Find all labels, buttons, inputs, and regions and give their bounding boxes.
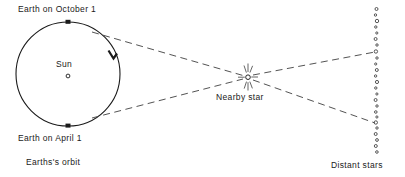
label-sun: Sun: [56, 60, 72, 69]
earth-april-marker: [66, 124, 71, 128]
label-distant-stars: Distant stars: [331, 161, 383, 170]
label-earth-october: Earth on October 1: [18, 5, 96, 14]
orbit-direction-tick-icon: [109, 51, 118, 59]
sun-marker: [66, 74, 70, 78]
sightline-star-to-upper-distant: [253, 52, 375, 75]
parallax-diagram: Earth on October 1 Sun Earth on April 1 …: [0, 0, 405, 177]
label-nearby-star: Nearby star: [216, 93, 264, 102]
label-earth-april: Earth on April 1: [18, 134, 82, 143]
nearby-star-marker: [246, 75, 251, 80]
sightline-october-to-star: [92, 32, 243, 76]
label-earths-orbit: Earths's orbit: [26, 158, 80, 167]
earth-october-marker: [66, 20, 71, 24]
distant-stars-column: [374, 8, 379, 154]
sightline-star-to-lower-distant: [253, 80, 375, 123]
diagram-canvas: [0, 0, 405, 177]
